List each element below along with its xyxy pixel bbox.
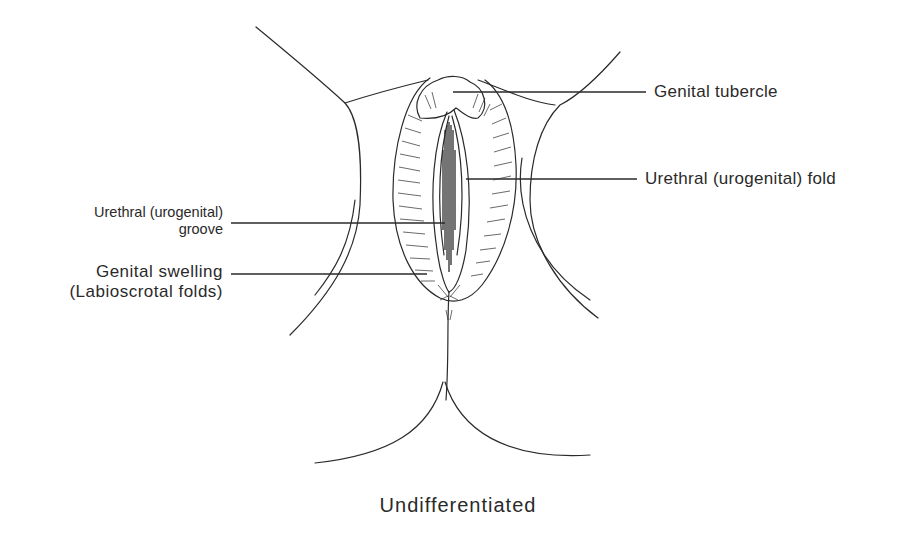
label-urethral-fold: Urethral (urogenital) fold	[645, 169, 836, 189]
label-genital-swelling-line1: Genital swelling	[69, 262, 223, 282]
label-genital-swelling: Genital swelling (Labioscrotal folds)	[69, 262, 223, 303]
label-genital-tubercle: Genital tubercle	[654, 82, 778, 102]
label-urethral-groove: Urethral (urogenital) groove	[94, 204, 223, 239]
anatomical-diagram: Genital tubercle Urethral (urogenital) f…	[0, 0, 916, 543]
label-urethral-groove-line2: groove	[94, 221, 223, 238]
figure-caption: Undifferentiated	[0, 494, 916, 517]
label-urethral-groove-line1: Urethral (urogenital)	[94, 204, 223, 221]
label-genital-swelling-line2: (Labioscrotal folds)	[69, 282, 223, 302]
